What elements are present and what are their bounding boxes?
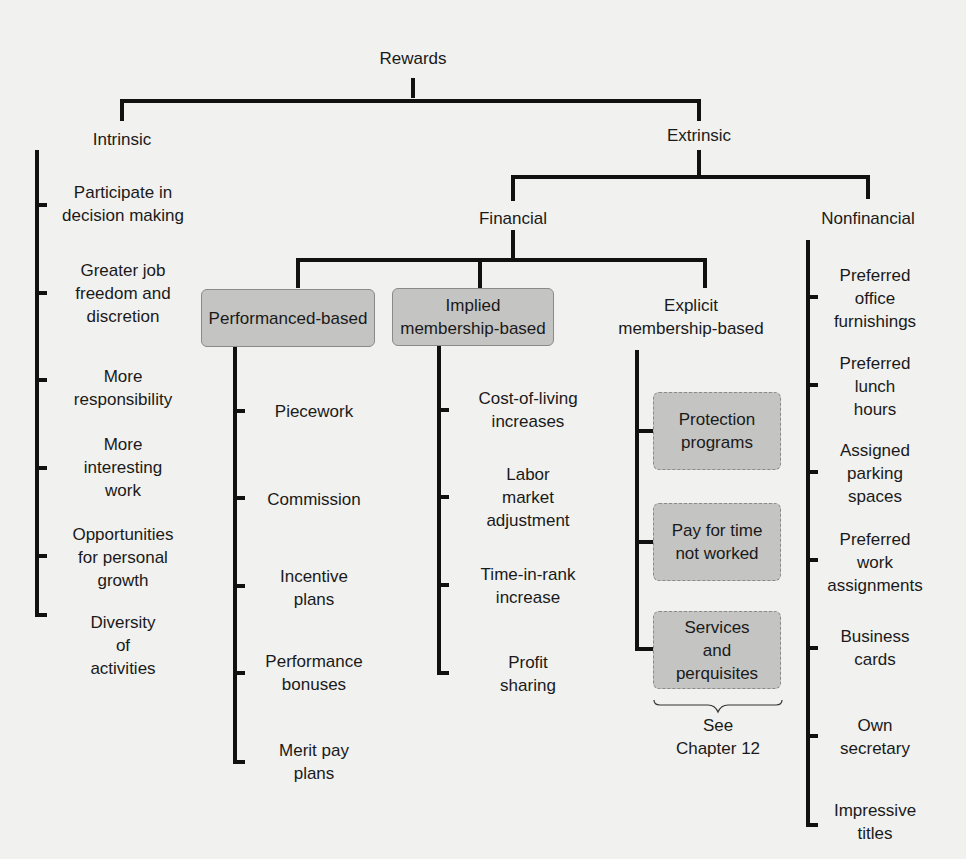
brace bbox=[654, 700, 782, 712]
node-performance-based: Performanced-based bbox=[201, 289, 375, 347]
node-extrinsic: Extrinsic bbox=[667, 124, 731, 147]
performance-item: Piecework bbox=[275, 400, 353, 423]
node-explicit-membership: Explicit membership-based bbox=[618, 294, 764, 340]
implied-item: Cost-of-living increases bbox=[478, 387, 577, 433]
explicit-item-services-perquisites: Services and perquisites bbox=[653, 611, 781, 689]
implied-item: Profit sharing bbox=[500, 651, 556, 697]
nonfinancial-item: Preferred work assignments bbox=[827, 528, 922, 597]
node-intrinsic: Intrinsic bbox=[93, 128, 152, 151]
intrinsic-item: Participate in decision making bbox=[62, 181, 184, 227]
implied-item: Labor market adjustment bbox=[486, 463, 569, 532]
nonfinancial-item: Assigned parking spaces bbox=[840, 439, 910, 508]
intrinsic-item: More responsibility bbox=[74, 365, 172, 411]
nonfinancial-item: Business cards bbox=[841, 625, 910, 671]
performance-item: Commission bbox=[267, 488, 361, 511]
explicit-item-pay-time-not-worked: Pay for time not worked bbox=[653, 503, 781, 581]
node-implied-membership: Implied membership-based bbox=[392, 288, 554, 346]
implied-item: Time-in-rank increase bbox=[481, 563, 576, 609]
performance-item: Merit pay plans bbox=[279, 739, 349, 785]
intrinsic-item: Opportunities for personal growth bbox=[72, 523, 173, 592]
nonfinancial-item: Own secretary bbox=[840, 714, 910, 760]
nonfinancial-item: Impressive titles bbox=[834, 799, 916, 845]
node-financial: Financial bbox=[479, 207, 547, 230]
intrinsic-item: Diversity of activities bbox=[90, 611, 155, 680]
nonfinancial-item: Preferred office furnishings bbox=[834, 264, 916, 333]
performance-item: Performance bonuses bbox=[265, 650, 362, 696]
intrinsic-item: More interesting work bbox=[84, 433, 162, 502]
node-rewards: Rewards bbox=[379, 47, 446, 70]
nonfinancial-item: Preferred lunch hours bbox=[840, 352, 911, 421]
node-nonfinancial: Nonfinancial bbox=[821, 207, 915, 230]
intrinsic-item: Greater job freedom and discretion bbox=[75, 259, 170, 328]
see-chapter-note: See Chapter 12 bbox=[676, 714, 760, 760]
performance-item: Incentive plans bbox=[280, 565, 348, 611]
explicit-item-protection-programs: Protection programs bbox=[653, 392, 781, 470]
